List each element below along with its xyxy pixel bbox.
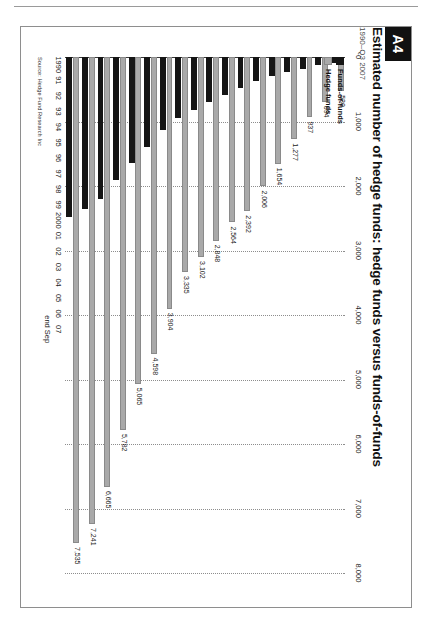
value-tick-label: 3,000	[354, 241, 363, 260]
category-tick-label: 91	[54, 76, 63, 84]
bar-group: 5,065	[129, 57, 142, 573]
category-tick-label: 98	[54, 185, 63, 193]
bar-hedge-funds	[291, 57, 297, 139]
bar-group: 3,904	[160, 57, 173, 573]
bar-funds-of-funds	[269, 57, 275, 76]
value-tick-label: 7,000	[354, 499, 363, 518]
bar-hedge-funds	[104, 57, 110, 487]
bar-group: 1,654	[269, 57, 282, 573]
bar-group: 7,535	[66, 57, 79, 573]
bar-value-label: 3,335	[183, 276, 190, 294]
bar-funds-of-funds	[253, 57, 259, 81]
rotated-figure-stage: A4 Estimated number of hedge funds: hedg…	[21, 27, 411, 607]
bar-funds-of-funds	[113, 57, 119, 180]
page-canvas: A4 Estimated number of hedge funds: hedg…	[0, 0, 429, 625]
figure-header: A4 Estimated number of hedge funds: hedg…	[355, 27, 411, 607]
bar-funds-of-funds	[222, 57, 228, 95]
bar-funds-of-funds	[206, 57, 212, 102]
bar-value-label: 7,535	[74, 547, 81, 565]
bar-hedge-funds	[275, 57, 281, 164]
legend-item: Funds-of-funds	[336, 57, 345, 124]
bar-value-label: 2,392	[245, 215, 252, 233]
bar-group: 2,006	[253, 57, 266, 573]
bar-group: 1,277	[284, 57, 297, 573]
bar-value-label: 3,102	[199, 261, 206, 279]
legend-swatch-hedge-funds	[325, 57, 333, 65]
bar-hedge-funds	[120, 57, 126, 430]
bar-value-label: 937	[308, 121, 315, 133]
bar-value-label: 2,006	[261, 190, 268, 208]
category-tick-label: 06	[54, 309, 63, 317]
bar-funds-of-funds	[160, 57, 166, 130]
category-axis-ticks: 1990919293949596979899200001020304050607…	[49, 57, 63, 573]
bar-value-label: 3,904	[168, 313, 175, 331]
value-tick-label: 6,000	[354, 435, 363, 454]
plot-area: 5306949371,2771,6542,0062,3922,5642,8483…	[65, 57, 345, 573]
bar-funds-of-funds	[144, 57, 150, 147]
bar-hedge-funds	[73, 57, 79, 543]
category-tick-label: 03	[54, 263, 63, 271]
category-tick-label: 92	[54, 92, 63, 100]
bar-funds-of-funds	[98, 57, 104, 199]
figure-badge: A4	[385, 27, 411, 61]
bar-group: 2,564	[222, 57, 235, 573]
bar-group: 2,848	[206, 57, 219, 573]
value-tick-label: 2,000	[354, 177, 363, 196]
bar-group: 2,392	[238, 57, 251, 573]
bar-value-label: 2,564	[230, 226, 237, 244]
bar-group: 530	[331, 57, 344, 573]
category-tick-label: 01	[54, 232, 63, 240]
value-axis-ticks: 01,0002,0003,0004,0005,0006,0007,0008,00…	[347, 57, 363, 573]
bar-funds-of-funds	[82, 57, 88, 209]
bar-hedge-funds	[229, 57, 235, 222]
bar-group: 7,241	[82, 57, 95, 573]
category-tick-label: 97	[54, 169, 63, 177]
bar-group: 5,782	[113, 57, 126, 573]
bar-funds-of-funds	[66, 57, 72, 217]
bar-hedge-funds	[198, 57, 204, 257]
bar-group: 694	[315, 57, 328, 573]
bar-hedge-funds	[167, 57, 173, 309]
category-tick-label: 04	[54, 278, 63, 286]
chart-legend: Funds-of-fundsHedge funds	[321, 57, 345, 124]
bar-value-label: 2,848	[214, 245, 221, 263]
gridline-8000	[65, 573, 345, 574]
bar-hedge-funds	[151, 57, 157, 354]
value-tick-label: 4,000	[354, 306, 363, 325]
category-tick-label: 99	[54, 201, 63, 209]
legend-item: Hedge funds	[324, 57, 333, 124]
bar-value-label: 1,654	[276, 168, 283, 186]
bar-value-label: 6,665	[105, 491, 112, 509]
bar-funds-of-funds	[284, 57, 290, 72]
bar-group: 3,102	[191, 57, 204, 573]
category-tick-label: 95	[54, 138, 63, 146]
bar-hedge-funds	[307, 57, 313, 117]
bar-funds-of-funds	[300, 57, 306, 69]
bar-group: 6,665	[98, 57, 111, 573]
chart-title: Estimated number of hedge funds: hedge f…	[370, 27, 385, 587]
category-tick-label: 94	[54, 123, 63, 131]
value-tick-label: 8,000	[354, 564, 363, 583]
bar-group: 937	[300, 57, 313, 573]
category-tick-label: 02	[54, 247, 63, 255]
legend-swatch-funds-of-funds	[337, 57, 345, 65]
bar-value-label: 5,065	[136, 388, 143, 406]
bar-hedge-funds	[260, 57, 266, 186]
bar-value-label: 4,598	[152, 358, 159, 376]
page-top-rule	[14, 6, 418, 7]
bar-value-label: 5,782	[121, 434, 128, 452]
bar-hedge-funds	[89, 57, 95, 524]
bar-funds-of-funds	[129, 57, 135, 163]
category-tick-label: 93	[54, 107, 63, 115]
bar-group: 4,598	[144, 57, 157, 573]
bar-hedge-funds	[244, 57, 250, 211]
bar-value-label: 1,277	[292, 143, 299, 161]
bar-hedge-funds	[182, 57, 188, 272]
bar-funds-of-funds	[175, 57, 181, 118]
bar-group: 3,335	[175, 57, 188, 573]
value-tick-label: 5,000	[354, 370, 363, 389]
figure-frame: A4 Estimated number of hedge funds: hedg…	[20, 26, 412, 608]
category-tick-label: 1990	[54, 56, 63, 73]
value-tick-label: 0	[354, 55, 363, 59]
bar-value-label: 7,241	[90, 528, 97, 546]
